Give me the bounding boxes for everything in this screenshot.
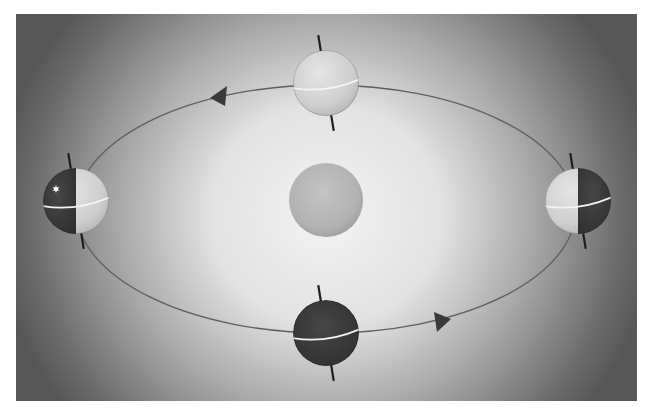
sun (289, 163, 363, 237)
orbit-diagram-svg (16, 14, 637, 401)
orbit-diagram-panel (16, 14, 637, 401)
